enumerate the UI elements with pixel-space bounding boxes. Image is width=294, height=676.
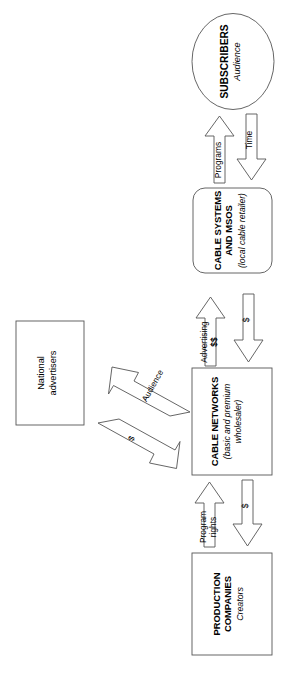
- national-advertisers-title-line2: advertisers: [48, 350, 58, 395]
- node-national-advertisers: National advertisers: [16, 321, 84, 425]
- node-production-companies: PRODUCTION COMPANIES Creators: [192, 553, 272, 655]
- production-companies-title-line2: COMPANIES: [222, 576, 233, 632]
- flow-audience: Audience: [109, 367, 191, 416]
- flow-time: Time: [237, 114, 266, 180]
- cable-networks-subtitle-line2: wholesaler): [233, 399, 243, 443]
- time-label: Time: [244, 131, 254, 150]
- program-rights-label-line1: Program: [198, 511, 208, 543]
- flow-diagram: SUBSCRIBERS Audience Programs Time CABLE…: [0, 0, 294, 676]
- flow-money-advertisers: $: [98, 419, 180, 469]
- cable-networks-shape: [192, 368, 272, 475]
- node-subscribers: SUBSCRIBERS Audience: [192, 14, 274, 110]
- money-systems-arrow-shape: [234, 294, 263, 362]
- cable-systems-title-line1: CABLE SYSTEMS: [212, 191, 223, 271]
- advertising-label-line2: $$: [209, 337, 219, 347]
- cable-networks-title: CABLE NETWORKS: [209, 377, 220, 467]
- subscribers-subtitle: Audience: [232, 42, 242, 81]
- node-cable-networks: CABLE NETWORKS (basic and premium wholes…: [192, 368, 272, 475]
- national-advertisers-title-line1: National: [36, 356, 46, 390]
- money-advertisers-arrow-shape: [98, 419, 180, 469]
- production-companies-title-line1: PRODUCTION: [211, 572, 222, 635]
- flow-money-systems: $: [234, 294, 263, 362]
- money-networks-label: $: [240, 503, 250, 508]
- node-cable-systems: CABLE SYSTEMS AND MSOS (local cable reta…: [193, 188, 272, 273]
- cable-systems-subtitle: (local cable retailer): [237, 193, 247, 268]
- program-rights-label-line2: rights: [208, 517, 218, 537]
- diagram-canvas: SUBSCRIBERS Audience Programs Time CABLE…: [0, 0, 294, 676]
- money-systems-label: $: [241, 317, 251, 322]
- flow-advertising: Advertising $$: [196, 297, 225, 366]
- money-networks-arrow-shape: [233, 480, 262, 546]
- cable-systems-title-line2: AND MSOS: [223, 205, 234, 256]
- flow-program-rights: Program rights: [195, 482, 224, 547]
- flow-money-networks: $: [233, 480, 262, 546]
- flow-programs: Programs: [205, 116, 234, 183]
- cable-networks-subtitle-line1: (basic and premium: [222, 384, 232, 459]
- production-companies-subtitle: Creators: [235, 587, 245, 621]
- subscribers-title: SUBSCRIBERS: [219, 24, 230, 98]
- programs-label: Programs: [213, 142, 223, 178]
- advertising-label-line1: Advertising: [199, 321, 209, 363]
